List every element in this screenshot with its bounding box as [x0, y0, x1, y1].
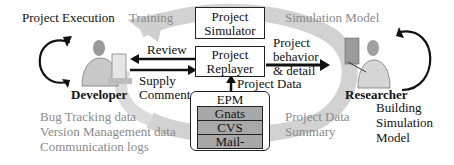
project-replayer-line2: Replayer	[196, 62, 264, 76]
supply-label: Supply	[139, 74, 176, 88]
project-behavior-line1: Project	[273, 36, 310, 50]
developer-loop-arrow	[40, 36, 72, 88]
project-simulator-box: Project Simulator	[195, 7, 265, 39]
project-data-arrow	[226, 75, 236, 92]
project-data-summary-line2: Summary	[285, 125, 336, 139]
comment-label: Comment	[139, 88, 190, 102]
researcher-loop-arrow	[396, 27, 430, 90]
epm-row-gnats: Gnats	[197, 106, 263, 121]
project-replayer-box: Project Replayer	[195, 46, 265, 77]
source-version-management: Version Management data	[40, 125, 176, 139]
project-simulator-line2: Simulator	[196, 24, 264, 38]
project-replayer-line1: Project	[196, 48, 264, 62]
building-line2: Simulation	[376, 116, 433, 130]
epm-title: EPM	[191, 93, 269, 107]
epm-row-cvs: CVS	[197, 120, 263, 135]
project-behavior-line2: behavior	[273, 50, 318, 64]
building-line3: Model	[376, 131, 410, 145]
developer-label: Developer	[71, 88, 127, 102]
epm-box: EPM Gnats CVS Mail-	[190, 91, 270, 151]
training-label: Training	[129, 11, 173, 25]
simulation-model-label: Simulation Model	[285, 11, 379, 25]
epm-row-mail: Mail-	[197, 134, 263, 149]
project-data-label: Project Data	[237, 77, 302, 91]
source-bug-tracking: Bug Tracking data	[40, 110, 136, 124]
review-label: Review	[147, 43, 187, 57]
project-simulator-line1: Project	[196, 10, 264, 24]
project-data-summary-line1: Project Data	[285, 110, 350, 124]
project-execution-label: Project Execution	[22, 11, 115, 25]
building-line1: Building	[376, 101, 422, 115]
developer-figure	[82, 40, 132, 86]
source-communication-logs: Communication logs	[40, 140, 149, 154]
